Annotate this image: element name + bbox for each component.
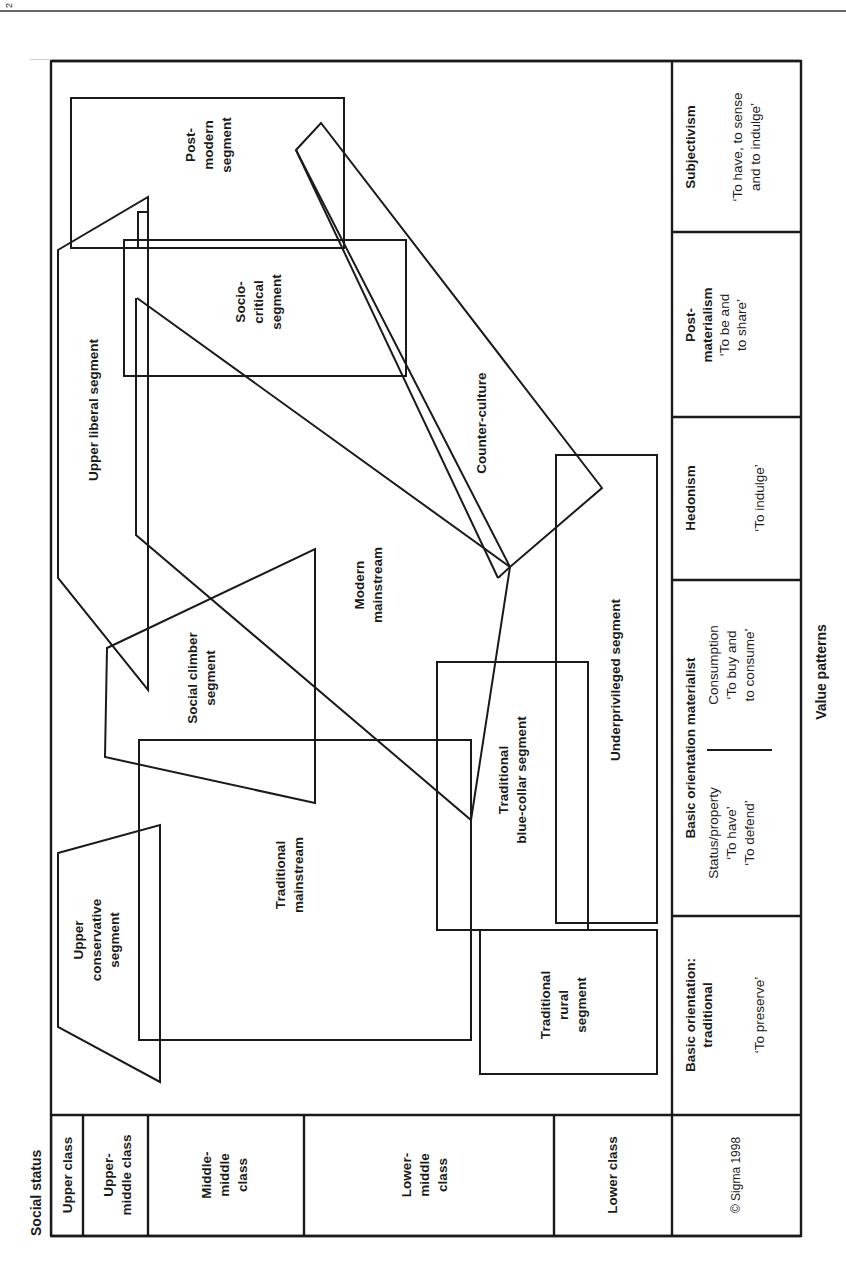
- status-middle-middle-line1: Middle-: [199, 1151, 214, 1198]
- post-modern-label-2: modern: [201, 120, 216, 170]
- socio-critical-label-1: Socio-: [233, 281, 248, 322]
- socio-critical-label-3: segment: [269, 274, 284, 330]
- traditional-mainstream-label-1: Traditional: [273, 841, 288, 909]
- value-postmat-title-1: Post-: [683, 308, 698, 342]
- blue-collar-label-1: Traditional: [496, 746, 511, 814]
- modern-mainstream-label-2: mainstream: [370, 547, 385, 623]
- traditional-rural-label-2: rural: [556, 990, 571, 1020]
- value-subjectivism-title: Subjectivism: [683, 105, 698, 188]
- status-lower-class: Lower class: [605, 1136, 620, 1213]
- upper-liberal-label: Upper liberal segment: [86, 339, 101, 481]
- y-axis-title: Social status: [28, 1149, 44, 1236]
- value-traditional-sub: ‘To preserve’: [752, 977, 767, 1054]
- value-to-defend: ‘To defend’: [742, 800, 757, 865]
- x-axis-title: Value patterns: [813, 624, 829, 720]
- traditional-blue-collar-shape: [437, 662, 588, 930]
- copyright: © Sigma 1998: [729, 1137, 743, 1214]
- value-hedonism-title: Hedonism: [683, 465, 698, 530]
- status-upper-class: Upper class: [60, 1137, 75, 1214]
- post-modern-label-1: Post-: [183, 128, 198, 162]
- status-middle-middle-line2: middle: [217, 1153, 232, 1197]
- value-subjectivism-sub-2: and to indulge’: [748, 103, 763, 191]
- upper-conservative-label-1: Upper: [71, 920, 86, 960]
- blue-collar-label-2: blue-collar segment: [514, 716, 529, 844]
- value-hedonism-sub: ‘To indulge’: [752, 464, 767, 532]
- value-to-have: ‘To have’: [724, 806, 739, 859]
- value-status-property: Status/property: [706, 787, 721, 879]
- value-traditional-title-2: traditional: [700, 982, 715, 1047]
- social-climber-label-2: segment: [203, 650, 218, 706]
- traditional-rural-label-3: segment: [574, 977, 589, 1033]
- upper-conservative-label-3: segment: [107, 912, 122, 968]
- value-postmat-sub-1: ‘To be and: [717, 294, 732, 356]
- page-marker: 2: [4, 3, 14, 8]
- value-to-consume: to consume’: [742, 629, 757, 702]
- status-lower-middle-line1: Lower-: [399, 1153, 414, 1197]
- social-climber-label-1: Social climber: [185, 631, 200, 723]
- counter-culture-label: Counter-culture: [474, 372, 489, 474]
- upper-conservative-label-2: conservative: [89, 898, 104, 981]
- sigma-milieu-diagram: 2 Social status Value patterns: [0, 0, 846, 1277]
- value-subjectivism-sub-1: ‘To have, to sense: [730, 93, 745, 202]
- socio-critical-label-2: critical: [251, 280, 266, 324]
- traditional-mainstream-label-2: mainstream: [291, 837, 306, 913]
- status-lower-middle-line2: middle: [417, 1153, 432, 1197]
- value-traditional-title-1: Basic orientation:: [683, 958, 698, 1072]
- status-upper-middle-line1: Upper-: [101, 1153, 116, 1197]
- underprivileged-label: Underprivileged segment: [608, 598, 623, 761]
- value-postmat-title-2: materialism: [700, 287, 715, 362]
- modern-mainstream-label-1: Modern: [352, 561, 367, 610]
- status-lower-middle-line3: class: [435, 1158, 450, 1192]
- value-materialist-title: Basic orientation materialist: [683, 657, 698, 838]
- status-middle-middle-line3: class: [235, 1158, 250, 1192]
- status-upper-middle-line2: middle class: [119, 1134, 134, 1215]
- post-modern-label-3: segment: [219, 117, 234, 173]
- value-postmat-sub-2: to share’: [734, 299, 749, 351]
- upper-liberal-shape: [58, 197, 148, 690]
- traditional-rural-label-1: Traditional: [538, 971, 553, 1039]
- underprivileged-shape: [556, 455, 657, 923]
- shape-join: [124, 212, 148, 248]
- value-to-buy: ‘To buy and: [724, 630, 739, 699]
- value-consumption: Consumption: [706, 625, 721, 705]
